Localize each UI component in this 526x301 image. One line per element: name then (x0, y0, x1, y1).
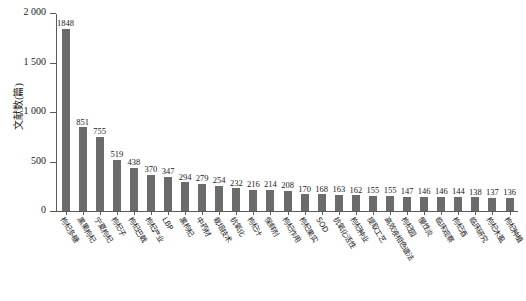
category-slot: 枸杞多糖 (57, 216, 74, 301)
category-label: 枸杞园 (400, 216, 417, 238)
bar-slot: 347 (159, 14, 176, 211)
bar-value-label: 216 (247, 180, 260, 189)
x-axis-category-labels: 枸杞多糖黑果枸杞宁夏枸杞枸杞子枸杞巴戟枸杞产业LBP黑枸杞中药材栽培技术抗氧化枸… (57, 216, 518, 301)
bar-slot: 370 (142, 14, 159, 211)
bar-slot: 438 (125, 14, 142, 211)
category-slot: 枸杞果实 (296, 216, 313, 301)
bar-slot: 138 (467, 14, 484, 211)
bar (284, 191, 292, 211)
bar (181, 182, 189, 211)
bar-value-label: 370 (145, 165, 158, 174)
bar-slot: 147 (399, 14, 416, 211)
bar-value-label: 254 (213, 176, 226, 185)
bar-slot: 1848 (57, 14, 74, 211)
x-axis-tick (322, 211, 323, 215)
bar-value-label: 519 (110, 150, 123, 159)
bar-value-label: 136 (503, 188, 516, 197)
x-axis-tick (424, 211, 425, 215)
x-axis-tick (202, 211, 203, 215)
bar (386, 196, 394, 211)
bar (232, 188, 240, 211)
category-slot: 宁夏枸杞 (91, 216, 108, 301)
bar-value-label: 168 (315, 185, 328, 194)
x-axis-tick (339, 211, 340, 215)
y-axis-tick-label: 1 000 (24, 105, 47, 116)
category-slot: SOD (313, 216, 330, 301)
bar-slot: 755 (91, 14, 108, 211)
bar-value-label: 155 (384, 186, 397, 195)
bar-slot: 163 (330, 14, 347, 211)
bar-slot: 519 (108, 14, 125, 211)
category-slot: LBP (159, 216, 176, 301)
bar (403, 197, 411, 211)
category-slot: 提取工艺 (364, 216, 381, 301)
bar (164, 177, 172, 211)
x-axis-tick (219, 211, 220, 215)
category-slot: 枸杞种业 (347, 216, 364, 301)
bar-chart: 文献数(篇) 05001 0001 5002 000 1848851755519… (0, 0, 526, 301)
bar (506, 198, 514, 211)
category-slot: 抗氧化 (228, 216, 245, 301)
bar (113, 160, 121, 211)
bar-value-label: 279 (196, 174, 209, 183)
bar (437, 197, 445, 211)
bar-value-label: 144 (452, 187, 465, 196)
category-label: 黑枸杞 (178, 216, 195, 238)
category-label: 保鲜剂 (263, 216, 280, 238)
bar-value-label: 755 (93, 127, 106, 136)
bar-value-label: 294 (179, 173, 192, 182)
bar-slot: 294 (177, 14, 194, 211)
x-axis-tick (492, 211, 493, 215)
bar-value-label: 851 (76, 118, 89, 127)
bar-value-label: 163 (332, 185, 345, 194)
bar-slot: 136 (501, 14, 518, 211)
category-slot: 枸杞子 (108, 216, 125, 301)
category-label: LBP (161, 216, 175, 232)
category-label: 抗氧化 (229, 216, 246, 238)
x-axis-tick (185, 211, 186, 215)
bar (335, 195, 343, 211)
x-axis-tick (390, 211, 391, 215)
bar-slot: 232 (228, 14, 245, 211)
x-axis-tick (441, 211, 442, 215)
category-slot: 枸杞汁 (245, 216, 262, 301)
category-slot: 枸杞巴戟 (125, 216, 142, 301)
y-axis-tick: 500 (50, 162, 56, 163)
category-slot: 抗氧化活性 (330, 216, 347, 301)
x-axis-tick (236, 211, 237, 215)
category-label: 慢性炎 (417, 216, 434, 238)
bar (471, 197, 479, 211)
bar-slot: 155 (364, 14, 381, 211)
bar-slot: 851 (74, 14, 91, 211)
category-slot: 枸杞作用 (279, 216, 296, 301)
bar (147, 175, 155, 211)
bar-slot: 146 (416, 14, 433, 211)
bar-value-label: 170 (298, 185, 311, 194)
plot-area: 05001 0001 5002 000 18488517555194383703… (56, 14, 518, 212)
bar (215, 186, 223, 211)
category-slot: 栽培技术 (211, 216, 228, 301)
bar (198, 184, 206, 211)
bar-value-label: 347 (162, 167, 175, 176)
x-axis-tick (475, 211, 476, 215)
bar-value-label: 146 (418, 187, 431, 196)
x-axis-tick (117, 211, 118, 215)
bar-slot: 279 (194, 14, 211, 211)
category-slot: 黑果枸杞 (74, 216, 91, 301)
category-slot: 保鲜剂 (262, 216, 279, 301)
bar (266, 190, 274, 211)
x-axis-tick (253, 211, 254, 215)
y-axis-tick: 2 000 (50, 13, 56, 14)
x-axis-tick (356, 211, 357, 215)
bar-value-label: 147 (401, 187, 414, 196)
category-label: 枸杞汁 (246, 216, 263, 238)
category-slot: 枸杞木虱 (484, 216, 501, 301)
bar-value-label: 162 (349, 186, 362, 195)
bar-slot: 168 (313, 14, 330, 211)
y-axis-tick: 1 500 (50, 63, 56, 64)
x-axis-tick (458, 211, 459, 215)
category-label: 枸杞酒 (451, 216, 468, 238)
y-axis-title-text: 文献数(篇) (10, 83, 25, 130)
bar-value-label: 138 (469, 188, 482, 197)
category-slot: 高效液相色谱法 (381, 216, 398, 301)
